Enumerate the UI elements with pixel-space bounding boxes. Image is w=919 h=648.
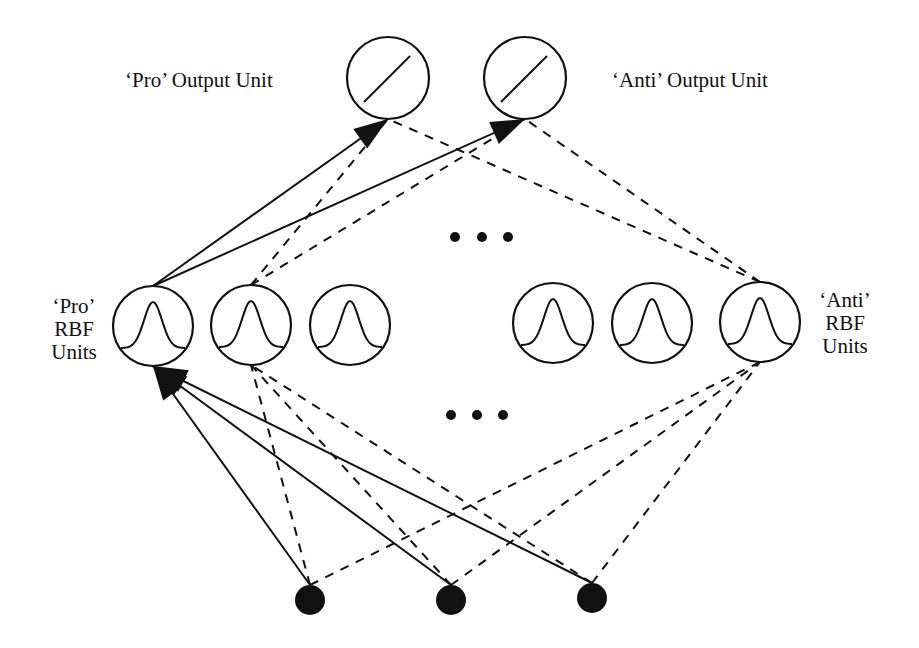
anti-rbf-label-line: ‘Anti’: [819, 288, 870, 312]
rbf-units-layer: [113, 282, 800, 366]
anti-output-label: ‘Anti’ Output Unit: [612, 68, 768, 92]
edge-in-1-to-rbf-6: [310, 362, 760, 585]
ellipsis-dot: [472, 410, 482, 420]
edge-in-3-to-rbf-2: [251, 365, 592, 583]
edge-in-2-to-rbf-6: [451, 362, 760, 585]
ellipsis-lower: [446, 410, 508, 420]
rbf-unit-circle: [720, 282, 800, 362]
pro-rbf-label-line: RBF: [54, 317, 94, 341]
edge-in-3-to-rbf-6: [592, 362, 760, 583]
anti-rbf-label-line: Units: [822, 334, 868, 358]
ellipsis-upper: [450, 232, 513, 242]
output-unit-pro: [347, 37, 429, 119]
pro-rbf-label: ‘Pro’ RBF Units: [51, 294, 97, 364]
ellipsis-dot: [450, 232, 460, 242]
rbf-unit-circle: [211, 285, 291, 365]
rbf-unit-circle: [612, 283, 692, 363]
rbf-unit-anti: [513, 283, 593, 363]
pro-rbf-label-line: Units: [51, 340, 97, 364]
edge-in-3-to-rbf-1: [153, 366, 592, 583]
rbf-unit-pro: [113, 286, 193, 366]
rbf-network-diagram: ‘Pro’ Output Unit ‘Anti’ Output Unit ‘Pr…: [0, 0, 919, 648]
output-unit-anti: [484, 37, 566, 119]
edge-rbf-2-to-out-anti: [251, 119, 525, 285]
rbf-unit-pro: [211, 285, 291, 365]
ellipsis-dot: [503, 232, 513, 242]
ellipsis-dot: [477, 232, 487, 242]
edge-rbf-1-to-out-anti: [153, 119, 525, 286]
ellipsis-dot: [446, 410, 456, 420]
input-node: [577, 583, 607, 613]
input-node: [436, 585, 466, 615]
input-nodes-layer: [295, 583, 607, 615]
edge-in-2-to-rbf-2: [251, 365, 451, 585]
anti-rbf-label-line: RBF: [825, 311, 865, 335]
edge-rbf-6-to-out-anti: [525, 119, 760, 282]
edge-rbf-1-to-out-pro: [153, 119, 388, 286]
anti-rbf-label: ‘Anti’ RBF Units: [819, 288, 870, 358]
edge-in-1-to-rbf-1: [153, 366, 310, 585]
pro-rbf-label-line: ‘Pro’: [52, 294, 95, 318]
pro-output-label: ‘Pro’ Output Unit: [125, 68, 273, 92]
rbf-unit-circle: [310, 285, 390, 365]
rbf-unit-circle: [513, 283, 593, 363]
rbf-unit-anti: [612, 283, 692, 363]
arrowhead-icon: [353, 119, 388, 149]
ellipsis-dot: [498, 410, 508, 420]
rbf-unit-pro: [310, 285, 390, 365]
rbf-unit-anti: [720, 282, 800, 362]
edge-in-2-to-rbf-1: [153, 366, 451, 585]
input-node: [295, 585, 325, 615]
rbf-unit-circle: [113, 286, 193, 366]
edge-rbf-6-to-out-pro: [388, 119, 760, 282]
